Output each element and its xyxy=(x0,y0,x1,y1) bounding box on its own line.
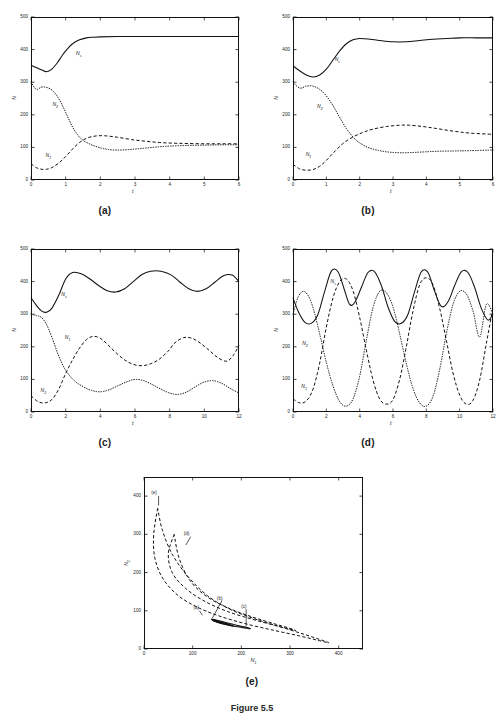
curve-label-N1: N1 xyxy=(65,334,71,342)
y-tick-label: 100 xyxy=(276,376,290,381)
figure-caption: Figure 5.5 xyxy=(212,703,292,713)
x-tick-label: 0 xyxy=(22,414,40,419)
plot-canvas xyxy=(144,477,363,649)
y-tick-label: 500 xyxy=(276,246,290,251)
x-tick-label: 5 xyxy=(451,182,469,187)
x-tick-label: 4 xyxy=(91,414,109,419)
panel-label-c: (c) xyxy=(85,437,125,448)
panel-label-b: (b) xyxy=(348,205,388,216)
x-tick-label: 4 xyxy=(417,182,435,187)
y-tick-label: 500 xyxy=(276,14,290,19)
y-tick-label: 500 xyxy=(14,246,28,251)
y-tick-label: 300 xyxy=(276,79,290,84)
y-tick-label: 400 xyxy=(276,47,290,52)
curve-label-Ns: Ns xyxy=(76,50,81,58)
x-axis-label: t xyxy=(390,188,392,194)
y-axis-label: N xyxy=(11,87,17,109)
y-tick-label: 0 xyxy=(276,177,290,182)
x-tick-label: 8 xyxy=(161,414,179,419)
y-tick-label: 200 xyxy=(14,344,28,349)
x-tick-label: 12 xyxy=(484,414,502,419)
y-tick-label: 300 xyxy=(14,311,28,316)
y-tick-label: 400 xyxy=(276,279,290,284)
x-tick-label: 300 xyxy=(281,651,299,656)
x-tick-label: 3 xyxy=(126,182,144,187)
x-tick-label: 10 xyxy=(195,414,213,419)
x-tick-label: 100 xyxy=(184,651,202,656)
x-tick-label: 0 xyxy=(135,651,153,656)
curve-label-N1: N1 xyxy=(46,152,52,160)
x-tick-label: 6 xyxy=(384,414,402,419)
x-tick-label: 4 xyxy=(161,182,179,187)
x-tick-label: 6 xyxy=(126,414,144,419)
phase-point-label: (d) xyxy=(184,531,190,536)
phase-point-label: (b) xyxy=(217,596,223,601)
panel-a: NsN2N101234560100200300400500tN xyxy=(31,17,239,180)
x-tick-label: 2 xyxy=(57,414,75,419)
x-tick-label: 8 xyxy=(417,414,435,419)
y-axis-label: N2 xyxy=(123,552,131,574)
x-tick-label: 6 xyxy=(484,182,502,187)
plot-canvas xyxy=(31,17,239,180)
curve-label-N2: N2 xyxy=(52,101,58,109)
y-axis-label: N xyxy=(273,87,279,109)
plot-canvas xyxy=(293,17,493,180)
curve-label-Ns: Ns xyxy=(61,291,66,299)
y-tick-label: 0 xyxy=(14,177,28,182)
curve-label-N1: N1 xyxy=(306,151,312,159)
curve-label-N2: N2 xyxy=(317,103,323,111)
y-tick-label: 300 xyxy=(14,79,28,84)
x-tick-label: 3 xyxy=(384,182,402,187)
x-tick-label: 10 xyxy=(451,414,469,419)
x-axis-label: t xyxy=(390,420,392,426)
y-tick-label: 200 xyxy=(276,112,290,117)
panel-e: (e)(d)(b)(a)(c)0100200300400010020030040… xyxy=(144,477,363,649)
y-tick-label: 400 xyxy=(127,493,141,498)
x-axis-label: N1 xyxy=(251,657,257,665)
curve-label-Ns: Ns xyxy=(335,56,340,64)
panel-b: NsN2N101234560100200300400500tN xyxy=(293,17,493,180)
y-axis-label: N xyxy=(273,319,279,341)
y-axis-label: N xyxy=(11,319,17,341)
y-tick-label: 200 xyxy=(14,112,28,117)
y-tick-label: 0 xyxy=(127,646,141,651)
panel-c: NsN1N20246810120100200300400500tN xyxy=(31,249,239,412)
curve-label-N1: N1 xyxy=(301,383,307,391)
x-tick-label: 1 xyxy=(57,182,75,187)
panel-label-a: (a) xyxy=(85,205,125,216)
phase-point-label: (a) xyxy=(194,605,200,610)
y-tick-label: 200 xyxy=(276,344,290,349)
plot-canvas xyxy=(293,249,493,412)
x-axis-label: t xyxy=(132,188,134,194)
y-tick-label: 100 xyxy=(276,144,290,149)
y-tick-label: 400 xyxy=(14,47,28,52)
x-tick-label: 2 xyxy=(351,182,369,187)
curve-label-N2: N2 xyxy=(302,340,308,348)
y-tick-label: 300 xyxy=(127,531,141,536)
x-tick-label: 2 xyxy=(317,414,335,419)
x-tick-label: 0 xyxy=(22,182,40,187)
panel-label-e: (e) xyxy=(232,676,272,687)
phase-point-label: (e) xyxy=(151,490,157,495)
curve-label-Ns: Ns xyxy=(331,278,336,286)
y-tick-label: 100 xyxy=(127,608,141,613)
x-tick-label: 6 xyxy=(230,182,248,187)
x-tick-label: 1 xyxy=(317,182,335,187)
x-tick-label: 12 xyxy=(230,414,248,419)
x-tick-label: 5 xyxy=(195,182,213,187)
y-tick-label: 500 xyxy=(14,14,28,19)
plot-canvas xyxy=(31,249,239,412)
phase-point-label: (c) xyxy=(241,604,246,609)
y-tick-label: 0 xyxy=(14,409,28,414)
x-tick-label: 0 xyxy=(284,414,302,419)
panel-d: NsN2N10246810120100200300400500tN xyxy=(293,249,493,412)
y-tick-label: 400 xyxy=(14,279,28,284)
y-tick-label: 100 xyxy=(14,376,28,381)
panel-label-d: (d) xyxy=(348,437,388,448)
x-axis-label: t xyxy=(132,420,134,426)
x-tick-label: 200 xyxy=(232,651,250,656)
y-tick-label: 0 xyxy=(276,409,290,414)
x-tick-label: 400 xyxy=(330,651,348,656)
curve-label-N2: N2 xyxy=(41,387,47,395)
x-tick-label: 0 xyxy=(284,182,302,187)
